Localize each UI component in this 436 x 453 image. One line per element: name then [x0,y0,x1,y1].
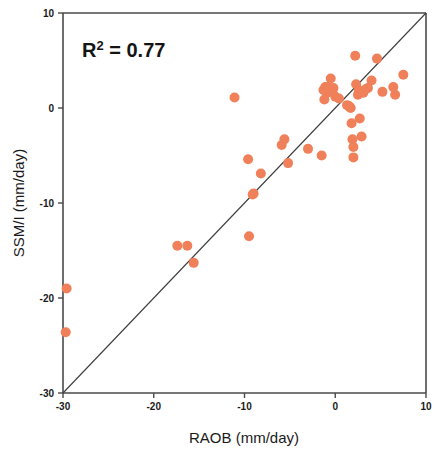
data-point [243,154,253,164]
y-tick-label: -20 [40,293,55,304]
x-tick-label: -20 [147,401,162,412]
x-tick-label: -30 [56,401,71,412]
data-point [334,94,344,104]
x-axis-title: RAOB (mm/day) [189,429,299,446]
data-point [172,241,182,251]
data-point [390,90,400,100]
data-point [303,144,313,154]
data-point [61,327,71,337]
data-point [326,74,336,84]
data-point [398,70,408,80]
data-point [189,258,199,268]
data-point [372,54,382,64]
data-point [317,151,327,161]
data-point [328,83,338,93]
y-tick-label: 10 [43,8,55,19]
y-tick-label: 0 [48,103,54,114]
data-point [283,158,293,168]
data-point [377,87,387,97]
x-tick-label: -10 [237,401,252,412]
data-point [346,103,356,113]
data-point [357,132,367,142]
y-axis-title: SSM/I (mm/day) [10,149,27,257]
x-tick-label: 10 [420,401,432,412]
data-point [355,113,365,123]
data-point [348,152,358,162]
chart-canvas: -30-20-10010 -30-20-10010 R2 = 0.77 RAOB… [0,0,436,453]
data-point [249,189,259,199]
x-tick-label: 0 [332,401,338,412]
y-tick-label: -30 [40,388,55,399]
data-point [348,142,358,152]
scatter-plot-figure: -30-20-10010 -30-20-10010 R2 = 0.77 RAOB… [0,0,436,453]
data-point [256,169,266,179]
data-point [182,241,192,251]
data-point [230,93,240,103]
data-point [279,134,289,144]
r-squared-annotation: R2 = 0.77 [82,38,165,61]
figure-background [0,0,436,453]
data-point [62,284,72,294]
y-tick-label: -10 [40,198,55,209]
data-point [367,75,377,85]
data-point [244,231,254,241]
data-point [350,51,360,61]
